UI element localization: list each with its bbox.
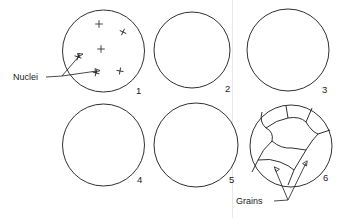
- grains-label: Grains: [236, 196, 263, 206]
- nuclei-label: Nuclei: [13, 72, 38, 82]
- panel-1: [63, 10, 145, 92]
- panel-circle-outline-2: [154, 12, 230, 88]
- figure-canvas: Nuclei Grains 123456: [0, 0, 340, 218]
- panel-number-2: 2: [225, 83, 230, 94]
- panel-circle-outline-5: [154, 103, 238, 187]
- solidification-stages-figure: Nuclei Grains 123456: [0, 0, 340, 218]
- panel-circle-1: [63, 10, 145, 92]
- panel-number-3: 3: [322, 84, 327, 95]
- panel-number-6: 6: [323, 172, 328, 183]
- panel-circle-outline-3: [247, 9, 329, 91]
- panel-circle-outline-4: [63, 104, 145, 186]
- panel-number-4: 4: [137, 174, 142, 185]
- panel-number-1: 1: [136, 85, 141, 96]
- panel-number-5: 5: [229, 174, 234, 185]
- panels-layer: [49, 9, 332, 187]
